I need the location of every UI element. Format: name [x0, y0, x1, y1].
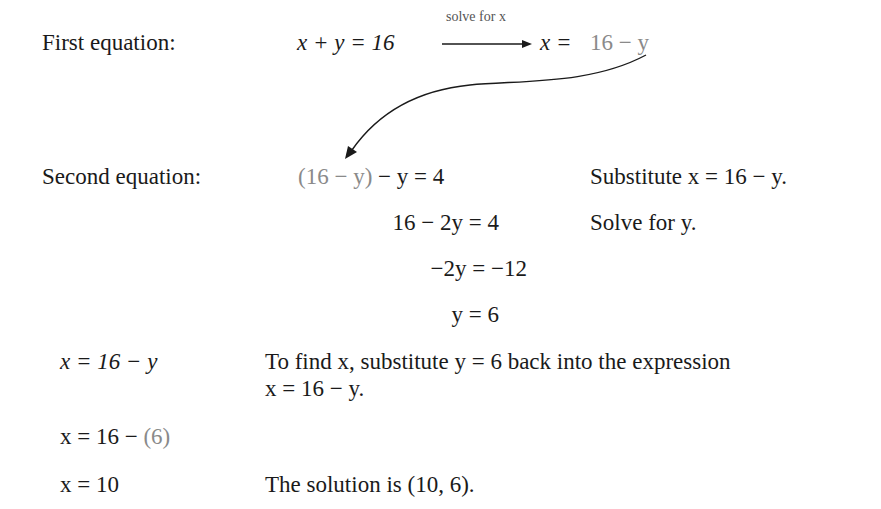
substituted-x: x = 16 − (6) [60, 424, 170, 450]
back-sub-note-cont: x = 16 − y. [265, 376, 364, 402]
equation-line: 16 − 2y = 4 [393, 210, 499, 236]
x-expression: x = 16 − [60, 424, 143, 449]
second-equation-label: Second equation: [42, 164, 201, 190]
back-sub-expression: x = 16 − y [60, 349, 157, 375]
back-sub-note: To find x, substitute y = 6 back into th… [265, 349, 731, 375]
substituted-value: (6) [143, 424, 170, 449]
substituted-equation: (16 − y) − y = 4 [298, 164, 444, 190]
first-equation-label: First equation: [42, 30, 176, 56]
solved-x-lhs: x = [540, 30, 571, 56]
solution-statement: The solution is (10, 6). [265, 472, 475, 498]
arrow-label: solve for x [446, 9, 506, 25]
equation-line: −2y = −12 [431, 256, 527, 282]
equation-line: y = 6 [452, 302, 499, 328]
equation-remainder: − y = 4 [372, 164, 444, 189]
x-result: x = 10 [60, 472, 119, 498]
substitution-curve-arrow-icon [345, 55, 646, 159]
step-note: Substitute x = 16 − y. [590, 164, 787, 190]
first-equation: x + y = 16 [297, 30, 394, 56]
step-note: Solve for y. [590, 210, 696, 236]
substituted-expression: (16 − y) [298, 164, 372, 189]
solved-x-rhs: 16 − y [590, 30, 649, 56]
solve-arrow-icon [442, 40, 532, 48]
